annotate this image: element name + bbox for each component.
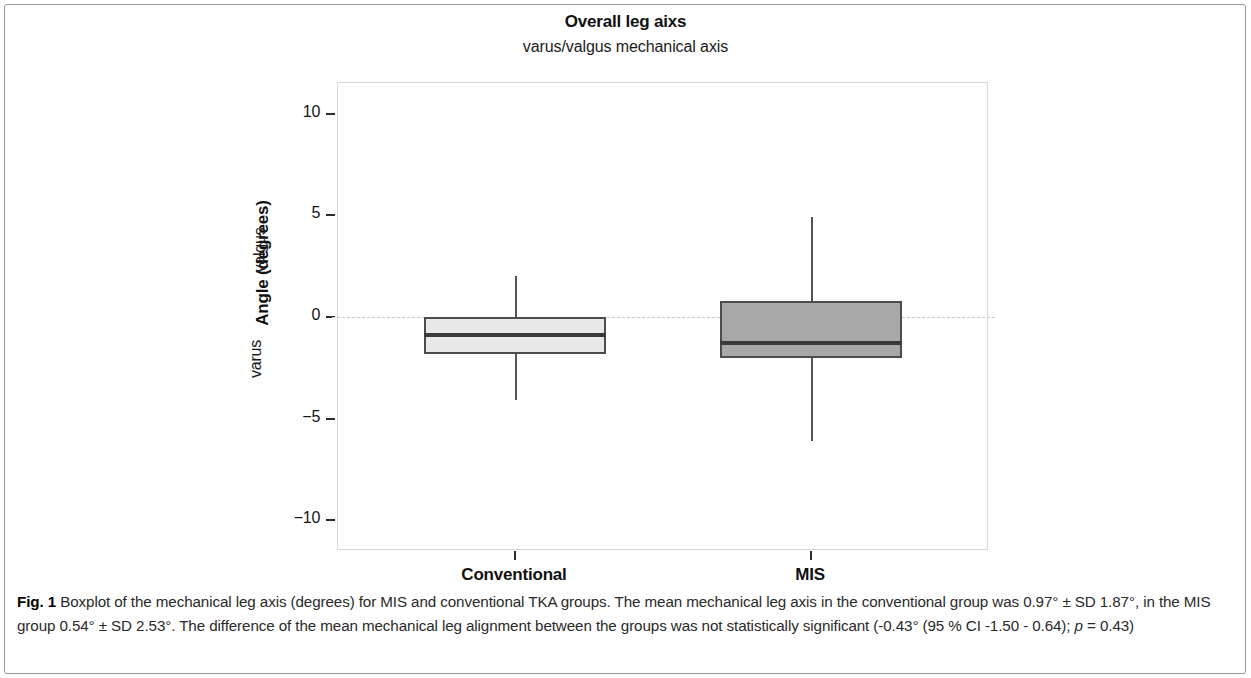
y-tick-mark xyxy=(326,214,335,216)
x-tick-label-conventional: Conventional xyxy=(374,565,654,585)
figure-caption: Fig. 1 Boxplot of the mechanical leg axi… xyxy=(17,590,1232,637)
median-line-mis xyxy=(720,341,902,345)
whisker-lower-mis xyxy=(811,358,813,441)
y-tick-label: 10 xyxy=(242,103,320,121)
y-axis-valgus-label: valgus xyxy=(251,227,269,272)
chart-title: Overall leg aixs xyxy=(0,12,1251,32)
x-tick-label-mis: MIS xyxy=(670,565,950,585)
whisker-upper-conventional xyxy=(515,276,517,317)
y-tick-mark xyxy=(326,519,335,521)
median-line-conventional xyxy=(424,333,606,337)
plot-panel xyxy=(337,82,988,550)
figure-caption-pvalue: = 0.43) xyxy=(1083,617,1134,634)
whisker-upper-mis xyxy=(811,217,813,300)
y-axis-varus-label: varus xyxy=(247,340,265,378)
y-tick-mark xyxy=(326,113,335,115)
y-tick-label: 5 xyxy=(242,204,320,222)
figure-caption-text: Boxplot of the mechanical leg axis (degr… xyxy=(17,593,1211,634)
y-tick-mark xyxy=(326,418,335,420)
figure-root: Overall leg aixs varus/valgus mechanical… xyxy=(0,0,1251,678)
y-tick-label: 0 xyxy=(242,306,320,324)
whisker-lower-conventional xyxy=(515,354,517,401)
box-mis xyxy=(720,301,902,358)
y-tick-label: −10 xyxy=(242,509,320,527)
chart-subtitle: varus/valgus mechanical axis xyxy=(0,38,1251,56)
y-tick-label: −5 xyxy=(242,408,320,426)
figure-label: Fig. 1 xyxy=(17,593,56,610)
x-tick-mark xyxy=(810,551,812,560)
x-tick-mark xyxy=(514,551,516,560)
figure-caption-pvalue-symbol: p xyxy=(1075,617,1083,634)
